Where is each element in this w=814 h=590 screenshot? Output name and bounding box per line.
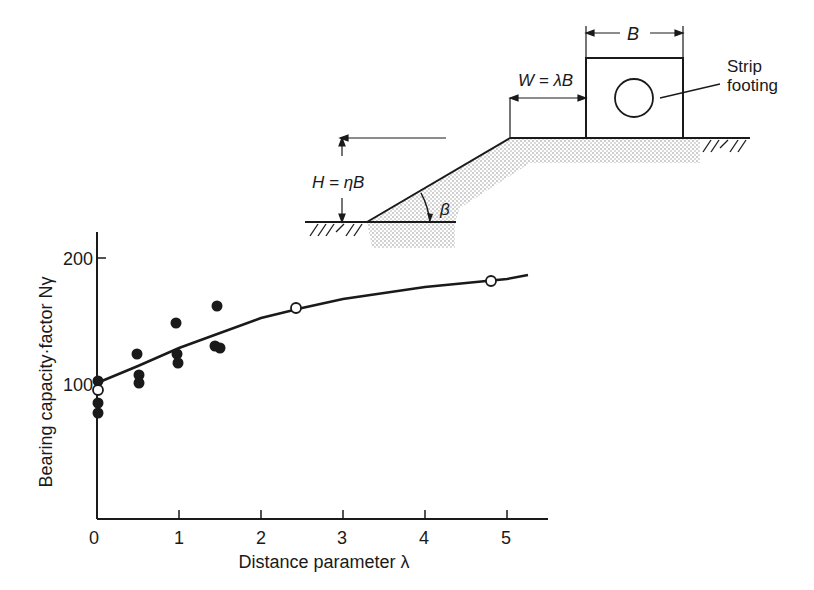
data-point [93,398,104,409]
data-point [93,385,103,395]
x-tick-label-3: 3 [337,528,347,548]
x-ticks [179,510,507,519]
data-point [93,408,104,419]
dimension-W [510,95,586,138]
y-tick-label-200: 200 [63,249,93,269]
data-point [486,276,496,286]
x-tick-label-0: 0 [89,528,99,548]
chart: 200 100 0 1 2 3 4 5 Distance parameter λ… [36,232,548,572]
data-point [291,303,301,313]
x-tick-label-1: 1 [174,528,184,548]
angle-beta-label: β [439,200,450,219]
x-axis-label: Distance parameter λ [238,552,409,572]
ground-hatch-left [310,224,362,236]
ground-hatch-right [703,140,746,152]
fitted-curve [97,275,528,383]
data-point [132,349,143,360]
footing-label-1: Strip [727,57,762,76]
experimental-points [93,301,226,419]
x-tick-label-5: 5 [501,528,511,548]
strip-footing [586,58,683,138]
theoretical-points [93,276,496,395]
data-point [215,343,226,354]
data-point [173,358,184,369]
x-tick-label-2: 2 [256,528,266,548]
data-point [212,301,223,312]
y-axis-label: Bearing capacity·factor Nγ [36,276,56,487]
y-tick-label-100: 100 [63,375,93,395]
data-point [134,378,145,389]
figure-canvas: Strip footing B W = λB H [0,0,814,590]
slope-footing-diagram: Strip footing B W = λB H [305,24,778,248]
dimension-B-label: B [627,24,639,44]
dimension-W-label: W = λB [518,71,573,90]
x-tick-label-4: 4 [419,528,429,548]
footing-label-2: footing [727,76,778,95]
dimension-H-label: H = ηB [312,173,364,192]
data-point [171,318,182,329]
